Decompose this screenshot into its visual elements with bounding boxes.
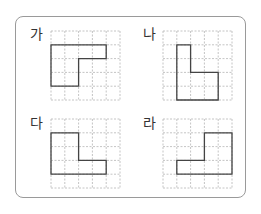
grid-panel-da — [50, 118, 121, 189]
panel-label-na: 나 — [143, 27, 156, 41]
grid-panel-ga — [50, 30, 121, 101]
panel-label-da: 다 — [30, 116, 43, 130]
grid-panel-na — [162, 30, 233, 101]
panel-label-ga: 가 — [30, 27, 43, 41]
grid-panel-ra — [162, 118, 233, 189]
panel-label-ra: 라 — [143, 116, 156, 130]
l-shape-ra — [177, 133, 232, 174]
l-shape-na — [177, 45, 218, 100]
l-shape-ga — [51, 45, 106, 86]
l-shape-da — [51, 133, 106, 174]
